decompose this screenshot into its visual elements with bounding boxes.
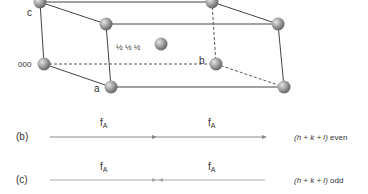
atom-front-top-right	[272, 18, 285, 31]
atom-back-top-right	[206, 0, 219, 9]
tag-b: (b)	[16, 132, 28, 142]
atom-front-bottom-right	[278, 81, 291, 94]
atom-b	[210, 58, 223, 71]
vector-line-b	[50, 135, 267, 139]
atom-body-center	[155, 38, 168, 51]
vector-line-c	[50, 178, 265, 182]
atom-origin	[38, 58, 51, 71]
condition-b: (h + k + l) even	[294, 134, 347, 142]
atom-front-top-left	[100, 18, 113, 31]
label-b: b	[199, 56, 205, 66]
label-body-center: ½ ½ ½	[116, 44, 140, 52]
fa-label-b2: fA	[208, 118, 215, 129]
tag-c: (c)	[16, 175, 28, 185]
arrow-head-reverse-icon	[158, 178, 163, 182]
label-origin: 000	[18, 61, 31, 69]
fa-label-c2: fA	[208, 162, 215, 173]
label-a: a	[94, 84, 100, 94]
fa-label-b1: fA	[100, 118, 107, 129]
fa-label-c1: fA	[100, 162, 107, 173]
arrow-head-icon	[152, 178, 157, 182]
arrow-head-icon	[262, 135, 267, 139]
atoms	[34, 0, 291, 94]
condition-c: (h + k + l) odd	[294, 177, 343, 185]
label-c: c	[27, 8, 32, 18]
atom-a	[105, 81, 118, 94]
atom-c	[34, 0, 47, 9]
unit-cell-diagram	[0, 0, 368, 194]
arrow-head-icon	[152, 135, 157, 139]
